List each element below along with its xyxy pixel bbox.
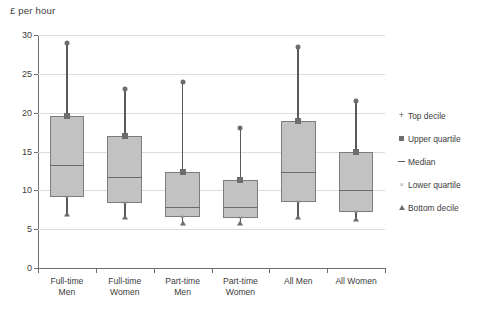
plus-marker-glyph: + <box>399 111 404 120</box>
bottom-decile-marker <box>122 214 128 219</box>
median-line <box>107 177 142 178</box>
interquartile-box <box>107 136 142 203</box>
x-tick-mark <box>212 268 213 273</box>
upper-quartile-marker <box>295 118 301 124</box>
top-decile-marker <box>354 99 359 104</box>
median-line <box>50 165 85 166</box>
legend-item: +Top decile <box>396 104 488 127</box>
top-decile-marker <box>64 40 69 45</box>
upper-whisker <box>240 128 242 180</box>
top-decile-marker <box>180 79 185 84</box>
y-tick-label: 20 <box>2 108 32 118</box>
y-tick-label: 25 <box>2 69 32 79</box>
x-tick-mark <box>38 268 39 273</box>
x-tick-mark <box>96 268 97 273</box>
box-plot-chart: £ per hour 051015202530 Full-timeMenFull… <box>0 0 490 318</box>
upper-whisker <box>182 82 184 172</box>
y-tick-label: 10 <box>2 185 32 195</box>
upper-whisker <box>124 89 126 136</box>
y-tick-label: 0 <box>2 263 32 273</box>
y-axis-title: £ per hour <box>10 5 55 16</box>
lower-quartile-marker: × <box>180 213 185 221</box>
gridline <box>38 152 385 153</box>
gridline <box>38 74 385 75</box>
median-line <box>223 207 258 208</box>
cross-marker-glyph: × <box>399 181 404 189</box>
x-tick-mark <box>269 268 270 273</box>
x-category-label: Part-timeWomen <box>223 276 258 298</box>
lower-quartile-marker: × <box>354 208 359 216</box>
lower-quartile-marker: × <box>122 199 127 207</box>
upper-whisker <box>66 43 68 116</box>
square-marker-icon <box>396 136 407 141</box>
legend-item: ×Lower quartile <box>396 173 488 196</box>
legend-item-label: Bottom decile <box>407 203 459 213</box>
top-decile-marker <box>238 126 243 131</box>
y-tick-label: 30 <box>2 30 32 40</box>
bottom-decile-marker <box>180 220 186 225</box>
triangle-marker-icon <box>396 205 407 210</box>
median-line <box>339 190 374 191</box>
gridline <box>38 229 385 230</box>
top-decile-marker <box>296 44 301 49</box>
x-category-label: All Women <box>335 276 376 287</box>
legend-item-label: Lower quartile <box>407 180 461 190</box>
square-marker-glyph <box>399 136 404 141</box>
x-tick-mark <box>385 268 386 273</box>
lower-quartile-marker: × <box>296 198 301 206</box>
bottom-decile-marker <box>295 214 301 219</box>
gridline <box>38 113 385 114</box>
upper-quartile-marker <box>237 177 243 183</box>
dash-marker-glyph <box>398 161 405 163</box>
median-line <box>281 172 316 173</box>
legend-item-label: Top decile <box>407 111 446 121</box>
upper-quartile-marker <box>180 169 186 175</box>
interquartile-box <box>165 172 200 217</box>
interquartile-box <box>50 116 85 197</box>
median-line <box>165 207 200 208</box>
chart-legend: +Top decileUpper quartileMedian×Lower qu… <box>396 104 488 219</box>
upper-quartile-marker <box>122 133 128 139</box>
interquartile-box <box>339 152 374 213</box>
x-category-label: Part-timeMen <box>165 276 200 298</box>
x-category-label: Full-timeWomen <box>108 276 141 298</box>
legend-item-label: Upper quartile <box>407 134 461 144</box>
gridline <box>38 190 385 191</box>
upper-quartile-marker <box>64 113 70 119</box>
plus-marker-icon: + <box>396 111 407 120</box>
bottom-decile-marker <box>64 211 70 216</box>
legend-item: Upper quartile <box>396 127 488 150</box>
upper-whisker <box>355 101 357 151</box>
legend-item-label: Median <box>407 157 435 167</box>
x-tick-mark <box>154 268 155 273</box>
interquartile-box <box>281 121 316 202</box>
lower-quartile-marker: × <box>65 193 70 201</box>
upper-whisker <box>297 47 299 122</box>
bottom-decile-marker <box>353 217 359 222</box>
legend-item: Bottom decile <box>396 196 488 219</box>
dash-marker-icon <box>396 161 407 163</box>
legend-item: Median <box>396 150 488 173</box>
lower-quartile-marker: × <box>238 214 243 222</box>
top-decile-marker <box>122 87 127 92</box>
upper-quartile-marker <box>353 149 359 155</box>
triangle-marker-glyph <box>399 205 405 210</box>
x-tick-mark <box>327 268 328 273</box>
y-tick-label: 5 <box>2 224 32 234</box>
x-category-label: Full-timeMen <box>50 276 83 298</box>
gridline <box>38 35 385 36</box>
y-tick-label: 15 <box>2 147 32 157</box>
x-category-label: All Men <box>284 276 313 287</box>
cross-marker-icon: × <box>396 181 407 189</box>
